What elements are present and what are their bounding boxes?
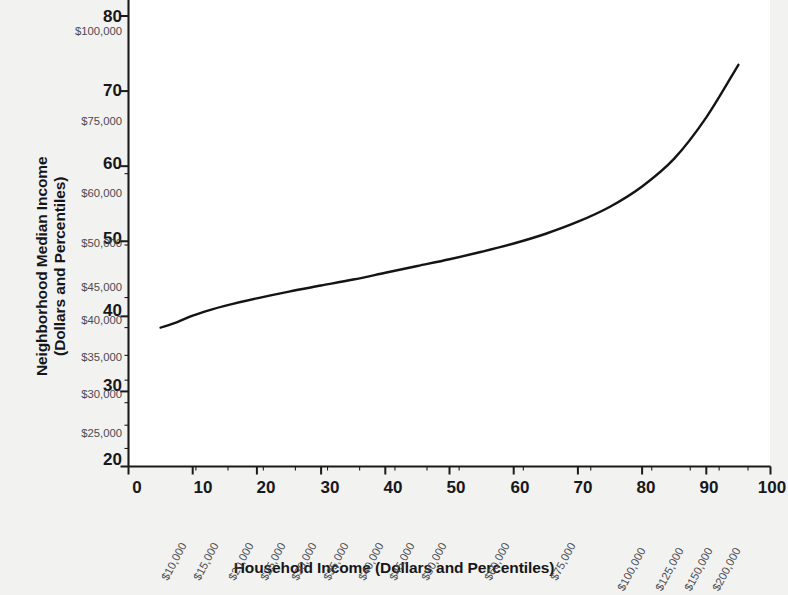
y-axis-tick-marks (121, 16, 129, 467)
x-axis-tick-marks (129, 467, 771, 475)
plot-background (128, 0, 770, 466)
